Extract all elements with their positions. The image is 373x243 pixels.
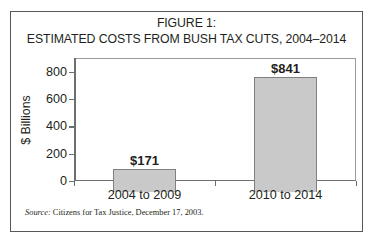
bar-value-label: $171	[130, 153, 159, 168]
x-tick-mark	[356, 181, 357, 186]
y-axis-title-label: $ Billions	[19, 95, 33, 145]
source-note: Source: Citizens for Tax Justice, Decemb…	[25, 208, 204, 217]
chart-plot-area: 0 200 400 600 800 $171 $841 2004 t	[74, 58, 356, 192]
y-tick-label: 400	[46, 119, 67, 133]
y-tick-label: 0	[60, 174, 67, 188]
x-tick-mark	[74, 181, 75, 186]
y-tick-mark	[69, 154, 74, 155]
bar[interactable]: $841	[254, 77, 316, 192]
y-tick-mark	[69, 99, 74, 100]
x-axis-category-label: 2004 to 2009	[108, 188, 182, 202]
y-axis-line	[74, 58, 76, 181]
x-tick-mark	[215, 181, 216, 186]
x-axis-category-label: 2010 to 2014	[249, 188, 323, 202]
bar-value-label: $841	[271, 61, 300, 76]
y-tick-mark	[69, 72, 74, 73]
figure-frame: FIGURE 1: ESTIMATED COSTS FROM BUSH TAX …	[10, 11, 363, 232]
source-note-label: Source:	[25, 208, 51, 217]
y-axis-title: $ Billions	[19, 58, 33, 181]
y-tick-label: 200	[46, 147, 67, 161]
source-note-text: Citizens for Tax Justice, December 17, 2…	[51, 208, 204, 217]
y-tick-mark	[69, 126, 74, 127]
figure-title-line-1: FIGURE 1:	[11, 16, 362, 32]
figure-title-line-2: ESTIMATED COSTS FROM BUSH TAX CUTS, 2004…	[11, 32, 362, 48]
y-tick-label: 600	[46, 92, 67, 106]
page-title: FIGURE 1: ESTIMATED COSTS FROM BUSH TAX …	[11, 16, 362, 47]
y-tick-label: 800	[46, 65, 67, 79]
